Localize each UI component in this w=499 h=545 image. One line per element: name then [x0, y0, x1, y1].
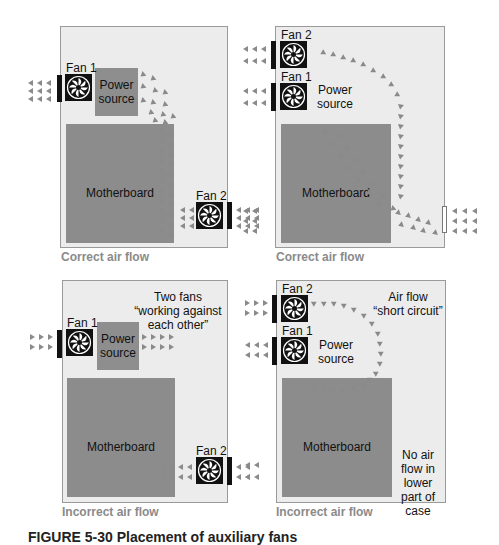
fan-1-label: Fan 1: [281, 71, 312, 83]
airflow-arrow-icon: [254, 310, 259, 316]
power-source: Power source: [310, 83, 360, 111]
airflow-arrow-icon: [254, 462, 259, 468]
airflow-arrow-icon: [252, 100, 257, 106]
airflow-arrow-icon: [320, 386, 325, 392]
airflow-arrow-icon: [261, 46, 266, 52]
fan-1-label: Fan 1: [67, 317, 98, 329]
fan-2-icon: [280, 41, 307, 68]
airflow-arrow-icon: [160, 474, 165, 480]
airflow-arrow-icon: [142, 344, 147, 350]
airflow-arrow-icon: [245, 342, 250, 348]
airflow-arrow-icon: [46, 96, 51, 102]
airflow-arrow-icon: [30, 344, 35, 350]
airflow-arrow-icon: [254, 474, 259, 480]
airflow-arrow-icon: [254, 352, 259, 358]
airflow-arrow-icon: [261, 88, 266, 94]
airflow-arrow-icon: [397, 104, 404, 110]
fan-2-label: Fan 2: [196, 190, 227, 202]
airflow-arrow-icon: [180, 215, 185, 221]
airflow-arrow-icon: [236, 215, 241, 221]
airflow-arrow-icon: [397, 164, 404, 170]
power-source: Power source: [95, 68, 138, 116]
fan-mount-bar: [227, 202, 232, 229]
airflow-arrow-icon: [472, 228, 477, 234]
airflow-arrow-icon: [37, 80, 42, 86]
airflow-arrow-icon: [252, 218, 257, 224]
fan-mount-bar: [57, 75, 62, 102]
airflow-arrow-icon: [462, 218, 467, 224]
airflow-arrow-icon: [46, 88, 51, 94]
fan-1-icon: [65, 74, 92, 101]
airflow-arrow-icon: [236, 464, 241, 470]
airflow-arrow-icon: [330, 388, 335, 394]
airflow-arrow-icon: [245, 462, 250, 468]
fan-2-icon: [196, 457, 223, 484]
airflow-arrow-icon: [236, 474, 241, 480]
fan-mount-bar: [227, 457, 232, 485]
airflow-arrow-icon: [48, 344, 53, 350]
motherboard: Motherboard: [282, 378, 392, 497]
airflow-arrow-icon: [169, 344, 174, 350]
airflow-arrow-icon: [236, 207, 241, 213]
annotation-no-air-flow: No air flow in lower part of case: [392, 448, 444, 518]
airflow-arrow-icon: [243, 218, 248, 224]
airflow-arrow-icon: [243, 228, 248, 234]
panel-caption: Correct air flow: [276, 250, 364, 264]
airflow-arrow-icon: [189, 207, 194, 213]
airflow-arrow-icon: [180, 223, 185, 229]
airflow-arrow-icon: [397, 134, 404, 140]
airflow-arrow-icon: [397, 124, 404, 130]
airflow-arrow-icon: [452, 208, 457, 214]
airflow-arrow-icon: [462, 208, 467, 214]
fan-mount-bar: [271, 83, 276, 111]
fan-1-label: Fan 1: [66, 62, 97, 74]
airflow-arrow-icon: [462, 228, 467, 234]
airflow-arrow-icon: [28, 88, 33, 94]
airflow-arrow-icon: [263, 310, 268, 316]
airflow-arrow-icon: [261, 58, 266, 64]
airflow-arrow-icon: [472, 208, 477, 214]
vent-opening: [442, 206, 447, 233]
fan-2-label: Fan 2: [281, 29, 312, 41]
airflow-arrow-icon: [243, 208, 248, 214]
airflow-arrow-icon: [169, 334, 174, 340]
airflow-arrow-icon: [39, 334, 44, 340]
airflow-arrow-icon: [48, 334, 53, 340]
airflow-arrow-icon: [243, 88, 248, 94]
airflow-arrow-icon: [254, 342, 259, 348]
airflow-arrow-icon: [397, 194, 404, 200]
annotation-short-circuit: Air flow “short circuit”: [372, 290, 444, 318]
airflow-arrow-icon: [178, 464, 183, 470]
airflow-arrow-icon: [397, 154, 404, 160]
fan-2-icon: [196, 202, 223, 229]
panel-caption: Incorrect air flow: [62, 505, 159, 519]
airflow-arrow-icon: [142, 334, 147, 340]
airflow-arrow-icon: [189, 215, 194, 221]
airflow-arrow-icon: [263, 300, 268, 306]
motherboard: Motherboard: [67, 378, 175, 497]
airflow-arrow-icon: [37, 88, 42, 94]
airflow-arrow-icon: [452, 218, 457, 224]
airflow-arrow-icon: [245, 300, 250, 306]
airflow-arrow-icon: [263, 342, 268, 348]
airflow-arrow-icon: [243, 46, 248, 52]
airflow-arrow-icon: [263, 352, 268, 358]
airflow-arrow-icon: [39, 344, 44, 350]
airflow-arrow-icon: [360, 382, 365, 388]
fan-1-icon: [66, 329, 93, 356]
airflow-arrow-icon: [151, 334, 156, 340]
airflow-arrow-icon: [189, 223, 194, 229]
fan-1-label: Fan 1: [282, 325, 313, 337]
airflow-arrow-icon: [46, 80, 51, 86]
airflow-arrow-icon: [252, 46, 257, 52]
airflow-arrow-icon: [243, 58, 248, 64]
airflow-arrow-icon: [37, 96, 42, 102]
airflow-arrow-icon: [28, 80, 33, 86]
fan-1-icon: [280, 83, 307, 110]
airflow-arrow-icon: [350, 385, 355, 391]
airflow-arrow-icon: [252, 208, 257, 214]
fan-2-label: Fan 2: [196, 445, 227, 457]
airflow-arrow-icon: [180, 207, 185, 213]
annotation-working-against: Two fans “working against each other”: [130, 290, 226, 332]
airflow-arrow-icon: [178, 474, 183, 480]
